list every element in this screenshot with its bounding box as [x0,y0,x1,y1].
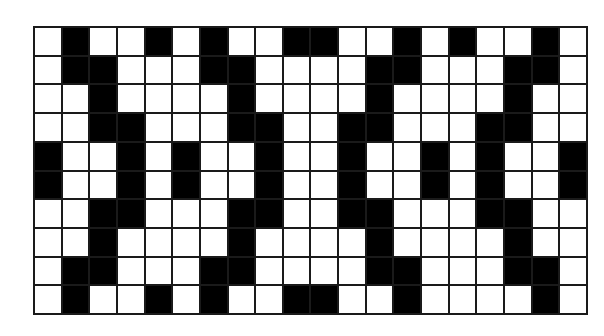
filled-cell [504,113,532,142]
empty-cell [449,257,477,286]
empty-cell [228,285,256,314]
empty-cell [559,228,587,257]
filled-cell [117,171,145,200]
empty-cell [62,113,90,142]
empty-cell [532,113,560,142]
empty-cell [89,171,117,200]
filled-cell [200,257,228,286]
empty-cell [310,84,338,113]
empty-cell [255,285,283,314]
empty-cell [62,84,90,113]
filled-cell [228,257,256,286]
filled-cell [504,56,532,85]
filled-cell [89,257,117,286]
filled-cell [504,84,532,113]
empty-cell [559,199,587,228]
empty-cell [117,228,145,257]
empty-cell [532,142,560,171]
empty-cell [34,228,62,257]
empty-cell [200,228,228,257]
empty-cell [228,142,256,171]
filled-cell [62,56,90,85]
empty-cell [117,285,145,314]
filled-cell [393,56,421,85]
empty-cell [532,171,560,200]
filled-cell [532,285,560,314]
filled-cell [421,171,449,200]
empty-cell [200,84,228,113]
empty-cell [504,142,532,171]
filled-cell [89,56,117,85]
filled-cell [393,257,421,286]
empty-cell [228,27,256,56]
empty-cell [283,84,311,113]
empty-cell [393,113,421,142]
filled-cell [366,113,394,142]
filled-cell [310,285,338,314]
empty-cell [172,27,200,56]
empty-cell [145,199,173,228]
empty-cell [476,56,504,85]
empty-cell [338,257,366,286]
filled-cell [89,228,117,257]
filled-cell [366,257,394,286]
empty-cell [310,171,338,200]
empty-cell [172,56,200,85]
empty-cell [117,84,145,113]
empty-cell [172,84,200,113]
filled-cell [172,171,200,200]
empty-cell [449,285,477,314]
empty-cell [366,27,394,56]
empty-cell [310,228,338,257]
filled-cell [62,285,90,314]
filled-cell [34,171,62,200]
empty-cell [200,199,228,228]
empty-cell [228,171,256,200]
empty-cell [255,27,283,56]
empty-cell [34,56,62,85]
empty-cell [559,56,587,85]
empty-cell [559,257,587,286]
filled-cell [228,228,256,257]
filled-cell [62,257,90,286]
empty-cell [172,228,200,257]
filled-cell [504,228,532,257]
empty-cell [559,27,587,56]
empty-cell [338,56,366,85]
filled-cell [393,285,421,314]
empty-cell [338,285,366,314]
filled-cell [228,113,256,142]
empty-cell [366,142,394,171]
empty-cell [255,84,283,113]
empty-cell [145,257,173,286]
empty-cell [393,171,421,200]
filled-cell [310,27,338,56]
filled-cell [476,199,504,228]
empty-cell [421,285,449,314]
empty-cell [310,113,338,142]
filled-cell [62,27,90,56]
empty-cell [476,257,504,286]
empty-cell [310,199,338,228]
filled-cell [145,27,173,56]
filled-cell [476,171,504,200]
empty-cell [476,84,504,113]
empty-cell [145,142,173,171]
empty-cell [449,84,477,113]
empty-cell [310,142,338,171]
filled-cell [476,142,504,171]
empty-cell [62,199,90,228]
filled-cell [117,199,145,228]
empty-cell [172,199,200,228]
empty-cell [34,285,62,314]
filled-cell [532,56,560,85]
empty-cell [117,27,145,56]
empty-cell [34,113,62,142]
empty-cell [255,56,283,85]
filled-cell [366,228,394,257]
empty-cell [283,199,311,228]
empty-cell [145,84,173,113]
empty-cell [117,257,145,286]
filled-cell [200,285,228,314]
filled-cell [393,27,421,56]
